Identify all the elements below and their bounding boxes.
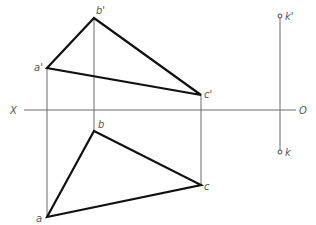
front-view-triangle [47,18,201,95]
point-k-marker [278,150,282,154]
label-b: b [98,119,104,130]
label-k-prime: k' [285,11,294,22]
label-c: c [204,181,210,192]
label-a: a [36,213,42,224]
label-a-prime: a' [34,62,43,73]
projection-diagram: X O a' b' c' a b c k' k [0,0,316,225]
o-axis-label: O [299,105,307,116]
label-c-prime: c' [204,89,212,100]
x-axis-label: X [9,105,18,116]
top-view-triangle [47,131,201,217]
point-k-prime-marker [278,14,282,18]
label-b-prime: b' [96,5,105,16]
label-k: k [285,147,292,158]
